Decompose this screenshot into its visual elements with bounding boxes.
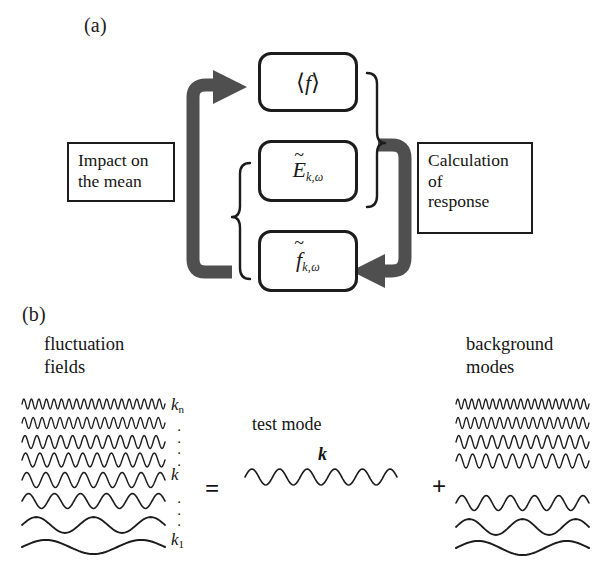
impact-on-mean-arrow (193, 70, 247, 272)
calculation-box-line-3: response (428, 191, 523, 212)
test-mode-wave (245, 462, 405, 492)
test-mode-caption: test mode (252, 414, 322, 436)
tilde-accent-icon: ~ (294, 146, 304, 164)
source-brace (232, 163, 250, 279)
figure-root: (a) ⟨f⟩ ~Ek,ω ~fk, (0, 0, 601, 571)
fluctuation-fields-wave-stack (22, 395, 172, 555)
state-box-fluctuating-distribution[interactable]: ~fk,ω (258, 230, 358, 292)
wave-mode-8 (456, 399, 589, 409)
wave-k (22, 473, 165, 488)
angle-bracket-right-icon: ⟩ (311, 70, 320, 95)
math-subscript-k-omega: k,ω (302, 260, 320, 274)
plus-operator: + (432, 473, 446, 501)
wave-mode-3 (22, 494, 165, 509)
fluctuation-caption-line-1: fluctuation (44, 333, 124, 356)
calculation-box-line-1: Calculation (428, 150, 523, 171)
wave-mode-5 (456, 454, 589, 468)
k-axis-dots-lower: ... (173, 493, 185, 528)
k-axis-tick-k: k (171, 465, 179, 485)
wave-mode-5 (22, 453, 165, 467)
k-axis-tick-kn: kn (171, 395, 184, 415)
background-modes-caption: background modes (466, 333, 553, 378)
wave-mode-7 (456, 418, 589, 429)
impact-box-line-2: the mean (78, 171, 165, 192)
tilde-group-E: ~E (292, 159, 305, 181)
panel-b-label: (b) (22, 303, 46, 326)
tilde-group-f: ~f (296, 249, 302, 271)
response-brace (367, 73, 385, 207)
wave-k (245, 469, 397, 485)
wave-k_1 (22, 540, 165, 554)
calculation-of-response-arrow (351, 145, 405, 288)
wave-mode-3 (456, 496, 589, 511)
background-modes-wave-stack (456, 395, 592, 555)
fluctuation-caption-line-2: fields (44, 356, 124, 379)
background-caption-line-2: modes (466, 356, 553, 379)
math-subscript-k-omega: k,ω (306, 170, 324, 184)
wave-mode-6 (456, 436, 589, 449)
wave-mode-2 (22, 517, 165, 533)
background-caption-line-1: background (466, 333, 553, 356)
state-box-fluctuating-field[interactable]: ~Ek,ω (258, 140, 358, 202)
panel-a-label: (a) (84, 14, 107, 37)
state-box-mean-distribution[interactable]: ⟨f⟩ (258, 52, 358, 112)
wave-mode-7 (22, 418, 165, 429)
math-mean-distribution: ⟨f⟩ (296, 71, 320, 94)
math-fluctuating-field: ~Ek,ω (292, 159, 323, 183)
calculation-box-line-2: of (428, 171, 523, 192)
calculation-of-response-box[interactable]: Calculation of response (417, 142, 533, 234)
tilde-accent-icon: ~ (294, 234, 304, 252)
k-axis-dots-upper: .... (173, 421, 185, 468)
angle-bracket-left-icon: ⟨ (296, 70, 305, 95)
k-axis-tick-k1: k1 (171, 530, 184, 550)
fluctuation-fields-caption: fluctuation fields (44, 333, 124, 378)
equals-operator: = (205, 475, 219, 503)
math-fluctuating-distribution: ~fk,ω (296, 249, 320, 273)
wave-mode-1 (456, 541, 589, 555)
wave-mode-6 (22, 436, 165, 449)
wave-k_n (22, 399, 165, 409)
impact-box-line-1: Impact on (78, 150, 165, 171)
impact-on-the-mean-box[interactable]: Impact on the mean (67, 142, 175, 202)
wavenumber-axis: kn .... k ... k1 (169, 397, 203, 557)
wave-mode-2 (456, 519, 589, 535)
